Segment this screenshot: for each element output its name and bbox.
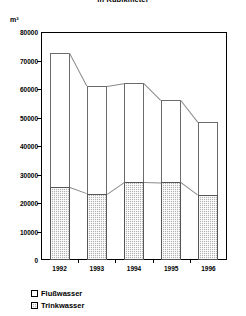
- x-axis-tick-label: 1995: [164, 265, 178, 273]
- chart-container: in Kubikmeter m³ 01000020000300004000050…: [0, 0, 246, 316]
- bar-segment-flusswasser: [87, 86, 107, 193]
- bar-segment-trinkwasser: [50, 187, 70, 260]
- x-axis-tick-label: 1996: [201, 265, 215, 273]
- y-axis-tick: [37, 175, 41, 176]
- trinkwasser-connector-line: [144, 182, 161, 184]
- y-axis-tick-label: 60000: [20, 86, 38, 93]
- y-axis-tick-label: 0: [34, 257, 38, 264]
- y-axis-tick: [37, 89, 41, 90]
- y-axis: 0100002000030000400005000060000700008000…: [0, 0, 38, 316]
- bar-segment-flusswasser: [161, 100, 181, 182]
- total-connector-line: [143, 83, 161, 101]
- empty-square-icon: [31, 290, 38, 297]
- x-axis-tick-label: 1993: [90, 265, 104, 273]
- legend-label-trinkwasser: Trinkwasser: [41, 301, 84, 310]
- y-axis-tick-label: 70000: [20, 57, 38, 64]
- y-axis-tick-label: 40000: [20, 143, 38, 150]
- total-connector-line: [180, 100, 198, 123]
- bar-segment-trinkwasser: [87, 194, 107, 260]
- x-axis-tick: [153, 260, 154, 263]
- bar-segment-trinkwasser: [124, 182, 144, 260]
- y-axis-tick: [37, 118, 41, 119]
- y-axis-tick: [37, 61, 41, 62]
- trinkwasser-connector-line: [181, 182, 199, 196]
- hatched-square-icon: [31, 302, 38, 309]
- y-axis-tick: [37, 146, 41, 147]
- y-axis-tick-label: 10000: [20, 228, 38, 235]
- y-axis-tick: [37, 203, 41, 204]
- x-axis-tick-label: 1994: [127, 265, 141, 273]
- y-axis-tick: [37, 232, 41, 233]
- trinkwasser-connector-line: [107, 182, 125, 195]
- bar-segment-flusswasser: [50, 53, 70, 187]
- bar-segment-trinkwasser: [198, 195, 218, 260]
- legend-item-trinkwasser: Trinkwasser: [31, 300, 181, 311]
- y-axis-tick-label: 20000: [20, 200, 38, 207]
- legend-label-flusswasser: Flußwasser: [41, 289, 82, 298]
- y-axis-tick-label: 30000: [20, 171, 38, 178]
- x-axis-tick-label: 1992: [52, 265, 66, 273]
- bar-segment-flusswasser: [124, 83, 144, 181]
- bar-segment-trinkwasser: [161, 182, 181, 260]
- bars-layer: [41, 32, 227, 260]
- y-axis-tick-label: 80000: [20, 29, 38, 36]
- legend-item-flusswasser: Flußwasser: [31, 288, 181, 299]
- total-connector-line: [107, 83, 124, 87]
- trinkwasser-connector-line: [69, 187, 87, 194]
- chart-legend: Flußwasser Trinkwasser: [31, 288, 181, 312]
- total-connector-line: [69, 53, 87, 86]
- bar-segment-flusswasser: [198, 122, 218, 195]
- x-axis-tick: [78, 260, 79, 263]
- x-axis-tick: [115, 260, 116, 263]
- y-axis-tick-label: 50000: [20, 114, 38, 121]
- x-axis-tick: [190, 260, 191, 263]
